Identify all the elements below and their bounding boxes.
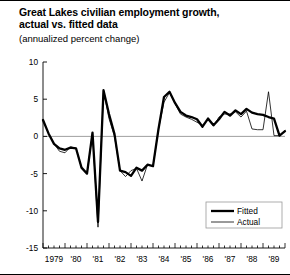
figure-container: Great Lakes civilian employment growth, … — [0, 0, 290, 275]
y-tick-label: -5 — [31, 169, 39, 179]
x-tick-label: '88 — [247, 254, 258, 264]
y-tick-label: 10 — [29, 57, 39, 67]
x-tick-label: '84 — [159, 254, 170, 264]
x-tick-label: '82 — [115, 254, 126, 264]
x-tick-label: '81 — [93, 254, 104, 264]
line-chart-plot: 1050-5-10-15 1979'80'81'82'83'84'85'86'8… — [0, 0, 290, 275]
y-tick-label: -10 — [26, 206, 38, 216]
x-axis-tick-labels: 1979'80'81'82'83'84'85'86'87'88'89 — [45, 254, 280, 264]
legend-label-actual: Actual — [237, 217, 260, 227]
y-tick-label: 5 — [33, 94, 38, 104]
y-tick-label: -15 — [26, 243, 38, 253]
y-tick-label: 0 — [33, 131, 38, 141]
y-axis-tick-labels: 1050-5-10-15 — [26, 57, 38, 253]
legend-label-fitted: Fitted — [237, 206, 258, 216]
x-tick-label: '86 — [203, 254, 214, 264]
x-tick-label: '85 — [181, 254, 192, 264]
x-tick-label: '80 — [71, 254, 82, 264]
x-tick-label: '89 — [269, 254, 280, 264]
y-axis-ticks — [43, 62, 47, 248]
x-tick-label: '83 — [137, 254, 148, 264]
x-axis-ticks — [43, 243, 285, 248]
x-tick-label: 1979 — [45, 254, 64, 264]
chart-legend: FittedActual — [206, 202, 282, 228]
x-tick-label: '87 — [225, 254, 236, 264]
